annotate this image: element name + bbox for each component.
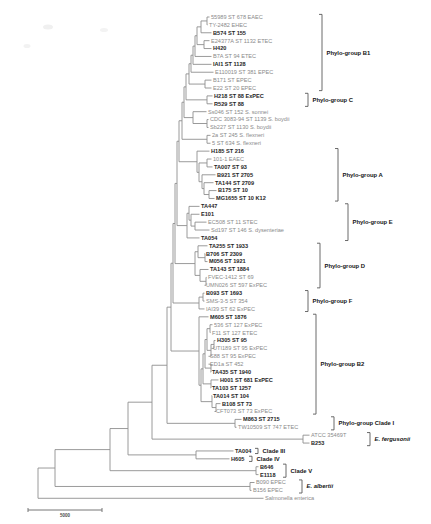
tip-label: 2a ST 245 S. flexneri bbox=[212, 132, 264, 138]
tip-label: Salmonella enterica bbox=[265, 495, 315, 501]
tip-label: B093 ST 1693 bbox=[206, 290, 242, 296]
group-bracket bbox=[319, 14, 322, 90]
tip-label: UTI189 ST 95 ExPEC bbox=[213, 345, 267, 351]
tip-label: B7A ST 94 ETEC bbox=[213, 53, 256, 59]
tip-label: B706 ST 2309 bbox=[206, 251, 242, 257]
tip-label: TA143 ST 1884 bbox=[210, 266, 250, 272]
tip-labels: 55989 ST 678 EAECTY-2482 EHECB574 ST 155… bbox=[201, 14, 347, 501]
tip-label: 101-1 EAEC bbox=[213, 156, 244, 162]
tip-label: IAI39 ST 62 ExPEC bbox=[206, 306, 255, 312]
group-bracket bbox=[317, 243, 320, 288]
group-bracket bbox=[255, 448, 258, 453]
tip-label: FVEC-1412 ST 69 bbox=[208, 274, 254, 280]
group-label: Phylo-group A bbox=[343, 172, 384, 178]
tip-label: ATCC 35469T bbox=[311, 432, 347, 438]
tip-label: UMN026 ST 597 ExPEC bbox=[206, 282, 267, 288]
group-label: Clade V bbox=[291, 468, 313, 474]
group-bracket bbox=[299, 480, 302, 493]
tip-label: E101 bbox=[201, 211, 214, 217]
tip-label: B108 ST 73 bbox=[222, 401, 252, 407]
tip-label: SMS-3-5 ST 354 bbox=[206, 298, 248, 304]
group-bracket bbox=[249, 456, 252, 461]
group-label: Phylo-group F bbox=[313, 298, 353, 304]
tip-label: CFT073 ST 73 ExPEC bbox=[216, 408, 272, 414]
tip-label: TA435 ST 1940 bbox=[212, 369, 251, 375]
group-label: Phylo-group C bbox=[313, 97, 354, 103]
group-bracket bbox=[335, 149, 338, 202]
tip-label: B090 EPEC bbox=[256, 479, 286, 485]
tip-label: H001 ST 681 ExPEC bbox=[220, 377, 273, 383]
group-label: Phylo-group B2 bbox=[321, 361, 366, 367]
tip-label: E110019 ST 381 EPEC bbox=[215, 69, 273, 75]
tip-label: TA007 ST 93 bbox=[214, 164, 247, 170]
tip-label: Sd197 ST 146 S. dysenteriae bbox=[211, 227, 284, 233]
tip-label: B921 ST 2705 bbox=[217, 172, 253, 178]
tip-label: H185 ST 216 bbox=[211, 148, 244, 154]
tip-label: B156 EPEC bbox=[253, 487, 283, 493]
scan-artifacts bbox=[24, 25, 109, 49]
figure-canvas: 55989 ST 678 EAECTY-2482 EHECB574 ST 155… bbox=[0, 0, 431, 524]
tip-label: Ss046 ST 152 S. sonnei bbox=[208, 109, 268, 115]
scale-bar-label: 5000 bbox=[60, 513, 71, 518]
tip-label: B171 ST EPEC bbox=[213, 77, 251, 83]
tip-label: ED1a ST 452 bbox=[210, 361, 243, 367]
tip-label: TA103 ST 1257 bbox=[212, 385, 251, 391]
tip-label: CDC 3083-94 ST 1139 S. boydii bbox=[210, 116, 289, 122]
tree-svg: 55989 ST 678 EAECTY-2482 EHECB574 ST 155… bbox=[0, 0, 431, 524]
tip-label: 5 ST 634 S. flexneri bbox=[212, 140, 261, 146]
group-label: E. albertii bbox=[307, 483, 334, 489]
scale-bar: 5000 bbox=[28, 508, 102, 518]
group-label: Clade IV bbox=[257, 456, 280, 462]
tip-label: TY-2482 EHEC bbox=[209, 22, 247, 28]
group-bracket bbox=[313, 314, 316, 414]
tip-label: TA144 ST 2709 bbox=[215, 180, 254, 186]
group-bracket bbox=[345, 204, 348, 241]
tip-label: Sb227 ST 1130 S. boydii bbox=[210, 124, 271, 130]
tip-label: TA447 bbox=[201, 203, 217, 209]
tip-label: H305 ST 95 bbox=[217, 337, 247, 343]
tip-label: TW10509 ST 747 ETEC bbox=[238, 424, 298, 430]
tip-label: B574 ST 155 bbox=[213, 30, 246, 36]
group-label: Phylo-group Clade I bbox=[339, 420, 395, 426]
tip-label: 536 ST 127 ExPEC bbox=[214, 322, 262, 328]
tip-label: M605 ST 1876 bbox=[210, 314, 247, 320]
tip-label: E22 ST 20 EPEC bbox=[213, 85, 256, 91]
tip-label: F11 ST 127 ETEC bbox=[212, 330, 257, 336]
tip-label: TA255 ST 1933 bbox=[209, 243, 248, 249]
group-label: Clade III bbox=[263, 448, 286, 454]
tip-label: B253 bbox=[311, 440, 324, 446]
tip-label: MG1655 ST 10 K12 bbox=[216, 195, 266, 201]
tip-label: M863 ST 2715 bbox=[243, 416, 280, 422]
tip-label: B646 bbox=[260, 464, 273, 470]
group-label: Phylo-group D bbox=[325, 263, 366, 269]
tip-label: EC508 ST 11 STEC bbox=[208, 219, 258, 225]
tip-label: S88 ST 95 ExPEC bbox=[210, 353, 256, 359]
group-bracket bbox=[283, 464, 286, 477]
tip-label: M056 ST 1921 bbox=[209, 258, 246, 264]
tip-label: R529 ST 88 bbox=[214, 101, 244, 107]
tip-label: TA014 ST 104 bbox=[213, 393, 250, 399]
tip-label: IAI1 ST 1128 bbox=[213, 61, 246, 67]
tip-label: H420 bbox=[213, 45, 226, 51]
group-bracket bbox=[367, 433, 370, 446]
tip-label: TA004 bbox=[235, 448, 252, 454]
tip-label: E1118 bbox=[260, 472, 276, 478]
tip-label: TA054 bbox=[201, 235, 218, 241]
group-bracket bbox=[305, 291, 308, 312]
tip-label: H605 bbox=[231, 456, 244, 462]
tip-label: 55989 ST 678 EAEC bbox=[211, 14, 263, 20]
group-bracket bbox=[305, 93, 308, 106]
tip-label: E24377A ST 1132 ETEC bbox=[211, 38, 272, 44]
group-bracket bbox=[331, 417, 334, 430]
group-label: Phylo-group E bbox=[353, 219, 393, 225]
tip-label: B175 ST 10 bbox=[218, 187, 248, 193]
tip-label: H218 ST 88 ExPEC bbox=[214, 93, 264, 99]
group-label: E. fergusonii bbox=[375, 436, 411, 442]
group-label: Phylo-group B1 bbox=[327, 50, 372, 56]
